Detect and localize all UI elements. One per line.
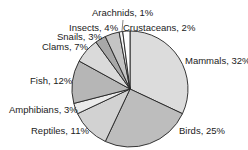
label-clams: Clams, 7% <box>42 41 88 52</box>
label-mammals: Mammals, 32% <box>185 55 248 66</box>
label-birds: Birds, 25% <box>179 125 225 136</box>
label-crustaceans: Crustaceans, 2% <box>123 22 195 33</box>
label-amphibians: Amphibians, 3% <box>9 104 78 115</box>
label-arachnids: Arachnids, 1% <box>92 7 153 18</box>
label-fish: Fish, 12% <box>30 75 72 86</box>
pie-slices <box>72 31 188 147</box>
label-reptiles: Reptiles, 11% <box>31 125 89 136</box>
